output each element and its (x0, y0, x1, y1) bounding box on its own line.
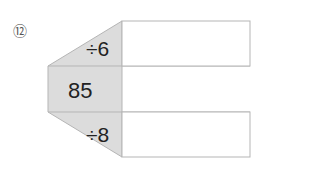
top-operation-label: ÷6 (86, 37, 109, 61)
bottom-answer-box[interactable] (122, 112, 250, 157)
bottom-operation-label: ÷8 (86, 123, 109, 147)
top-answer-box[interactable] (122, 21, 250, 66)
center-value: 85 (68, 78, 92, 104)
